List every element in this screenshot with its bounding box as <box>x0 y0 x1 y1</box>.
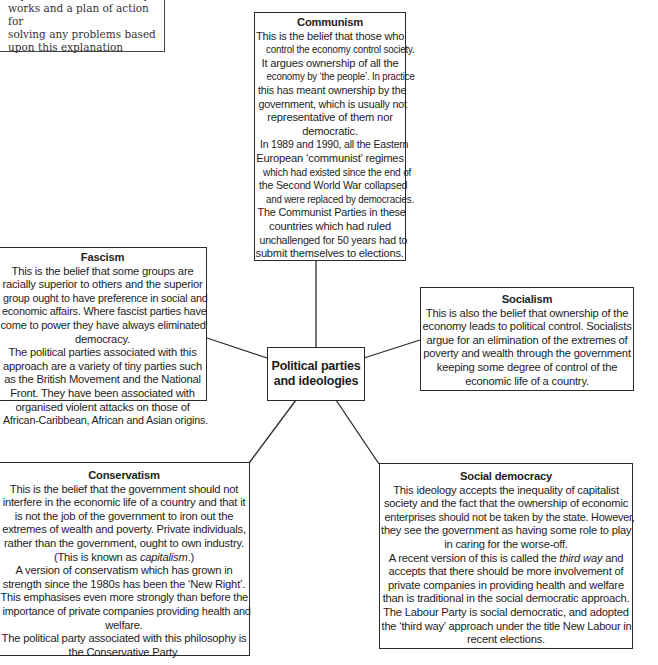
fascism-line: This is the belief that some groups are <box>0 265 206 279</box>
conservatism-line: rather than the government, ought to own… <box>0 537 249 551</box>
social-democracy-line: the ‘third way’ approach under the title… <box>380 620 632 634</box>
third-way-term: third way <box>559 552 602 564</box>
fascism-line: Front. They have been associated with <box>0 387 206 401</box>
socialism-line: poverty and wealth through the governmen… <box>421 347 633 361</box>
communism-line: In 1989 and 1990, all the Eastern <box>255 138 405 152</box>
social-democracy-line: enterprises should not be taken by the s… <box>380 511 632 525</box>
center-title-line1: Political parties <box>268 359 364 374</box>
communism-line: government, which is usually not <box>255 98 405 112</box>
third-way-prefix: A recent version of this is called the <box>389 552 560 564</box>
connector-social-democracy <box>336 400 379 464</box>
fascism-line: as the British Movement and the National <box>0 373 206 387</box>
social-democracy-line: private companies in providing health an… <box>380 579 632 593</box>
conservatism-line: strength since the 1980s has been the ‘N… <box>0 578 249 592</box>
socialism-line: economic life of a country. <box>421 375 633 389</box>
fascism-title: Fascism <box>0 251 206 265</box>
fascism-line: organised violent attacks on those of <box>0 401 206 415</box>
fascism-line: African-Caribbean, African and Asian ori… <box>0 414 206 428</box>
fascism-line: group ought to have preference in social… <box>0 292 206 306</box>
conservatism-line: A version of conservatism which has grow… <box>0 564 249 578</box>
fascism-line: The political parties associated with th… <box>0 346 206 360</box>
social-democracy-title: Social democracy <box>380 470 632 484</box>
social-democracy-line: society and the fact that the ownership … <box>380 497 632 511</box>
partial-line: solving any problems based <box>8 28 164 41</box>
partial-box-top-left: explanation of how society works and a p… <box>0 0 165 52</box>
social-democracy-line: recent elections. <box>380 633 632 647</box>
fascism-line: approach are a variety of tiny parties s… <box>0 360 206 374</box>
communism-line: economy by ‘the people’. In practice <box>255 70 405 84</box>
communism-line: which had existed since the end of <box>255 166 405 180</box>
third-way-line: A recent version of this is called the t… <box>380 552 632 566</box>
communism-line: European ‘communist’ regimes <box>255 152 405 166</box>
communism-line: the Second World War collapsed <box>255 179 405 193</box>
social-democracy-line: they see the government as having some r… <box>380 524 632 538</box>
social-democracy-line: than is traditional in the social democr… <box>380 592 632 606</box>
center-title-line2: and ideologies <box>268 374 364 389</box>
social-democracy-line: in caring for the worse-off. <box>380 538 632 552</box>
capitalism-term: capitalism <box>140 551 188 563</box>
communism-box: Communism This is the belief that those … <box>254 12 406 261</box>
third-way-suffix: and <box>602 552 623 564</box>
social-democracy-line: The Labour Party is social democratic, a… <box>380 606 632 620</box>
conservatism-line: the Conservative Party. <box>0 646 249 660</box>
communism-line: democratic. <box>255 125 405 139</box>
socialism-line: economy leads to political control. Soci… <box>421 320 633 334</box>
fascism-line: come to power they have always eliminate… <box>0 319 206 333</box>
connector-fascism <box>207 338 267 358</box>
communism-title: Communism <box>255 16 405 30</box>
fascism-line: racially superior to others and the supe… <box>0 278 206 292</box>
conservatism-title: Conservatism <box>0 469 249 483</box>
communism-line: The Communist Parties in these <box>255 206 405 220</box>
communism-line: and were replaced by democracies. <box>255 193 405 207</box>
conservatism-line: This emphasises even more strongly than … <box>0 591 249 605</box>
communism-line: unchallenged for 50 years had to <box>255 234 405 248</box>
connector-socialism <box>364 340 420 358</box>
communism-line: countries which had ruled <box>255 220 405 234</box>
capitalism-prefix: (This is known as <box>54 551 140 563</box>
conservatism-line: welfare. <box>0 619 249 633</box>
communism-line: control the economy control society. <box>255 43 405 57</box>
fascism-line: democracy. <box>0 333 206 347</box>
conservatism-line: importance of private companies providin… <box>0 605 249 619</box>
social-democracy-box: Social democracy This ideology accepts t… <box>379 463 633 649</box>
communism-line: representative of them nor <box>255 111 405 125</box>
partial-line: upon this explanation <box>8 41 164 54</box>
communism-line: submit themselves to elections. <box>255 247 405 261</box>
conservatism-line: extremes of wealth and poverty. Private … <box>0 523 249 537</box>
fascism-line: economic affairs. Where fascist parties … <box>0 305 206 319</box>
communism-line: This is the belief that those who <box>255 30 405 44</box>
connector-conservatism <box>249 400 296 463</box>
conservatism-line: is not the job of the government to iron… <box>0 510 249 524</box>
socialism-line: argue for an elimination of the extremes… <box>421 334 633 348</box>
partial-line: works and a plan of action for <box>8 2 164 28</box>
conservatism-line: interfere in the economic life of a coun… <box>0 496 249 510</box>
fascism-box: Fascism This is the belief that some gro… <box>0 247 207 401</box>
capitalism-suffix: .) <box>188 551 194 563</box>
communism-line: It argues ownership of all the <box>255 57 405 71</box>
socialism-line: This is also the belief that ownership o… <box>421 307 633 321</box>
conservatism-box: Conservatism This is the belief that the… <box>0 462 250 656</box>
socialism-title: Socialism <box>421 293 633 307</box>
conservatism-line: The political party associated with this… <box>0 632 249 646</box>
socialism-box: Socialism This is also the belief that o… <box>420 287 634 391</box>
social-democracy-line: accepts that there should be more involv… <box>380 565 632 579</box>
communism-line: this has meant ownership by the <box>255 84 405 98</box>
conservatism-line: This is the belief that the government s… <box>0 483 249 497</box>
socialism-line: keeping some degree of control of the <box>421 361 633 375</box>
conservatism-capitalism-line: (This is known as capitalism.) <box>0 551 249 565</box>
social-democracy-line: This ideology accepts the inequality of … <box>380 484 632 498</box>
center-node-box: Political parties and ideologies <box>267 347 365 401</box>
